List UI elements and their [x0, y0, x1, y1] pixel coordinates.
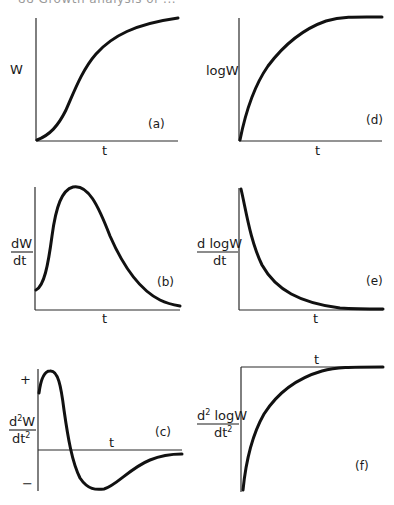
y-label-numerator: d logW — [197, 236, 242, 251]
y-label-denominator: dt2 — [12, 431, 30, 446]
minus-tick-label: − — [22, 476, 33, 491]
y-label-denominator: dt — [13, 253, 26, 268]
x-label: t — [102, 311, 107, 326]
growth-figure: W t (a) logW t (d) dW dt t (b) d logW dt… — [0, 0, 394, 505]
panel-label: (f) — [355, 459, 369, 473]
y-label-numerator: d2 logW — [197, 408, 247, 423]
y-label-denominator: dt2 — [214, 425, 232, 440]
x-label: t — [313, 311, 318, 326]
y-label-numerator: d2W — [9, 414, 35, 429]
panel-a: W t (a) — [10, 18, 178, 158]
panel-label: (e) — [366, 274, 383, 288]
y-label-denominator: dt — [213, 253, 226, 268]
plus-tick-label: + — [20, 372, 31, 387]
x-label: t — [109, 435, 114, 450]
panel-label: (d) — [366, 113, 383, 127]
y-label: logW — [206, 63, 239, 78]
panel-label: (c) — [155, 425, 171, 439]
y-label-numerator: dW — [11, 236, 32, 251]
panel-d: logW t (d) — [206, 17, 383, 158]
x-label: t — [102, 143, 107, 158]
panel-b: dW dt t (b) — [11, 187, 180, 326]
curve-logw — [240, 17, 382, 140]
x-label: t — [314, 352, 319, 367]
panel-e: d logW dt t (e) — [197, 188, 383, 326]
curve-dlogwdt — [241, 189, 383, 309]
panel-f: t d2 logW dt2 (f) — [197, 352, 383, 492]
x-label: t — [315, 143, 320, 158]
panel-c: + − d2W dt2 t (c) — [9, 369, 182, 491]
panel-label: (b) — [157, 275, 174, 289]
y-label: W — [10, 62, 23, 77]
panel-label: (a) — [148, 117, 165, 131]
